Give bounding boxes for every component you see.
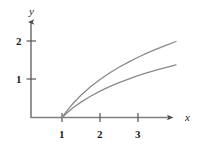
curve-upper	[62, 42, 176, 118]
plot-area: y x 2 1 1 2 3	[0, 0, 201, 151]
x-tick-label-3: 3	[135, 128, 141, 140]
x-tick-label-2: 2	[97, 128, 103, 140]
y-axis-label: y	[28, 5, 34, 17]
logarithm-curves-figure: y x 2 1 1 2 3	[0, 0, 201, 151]
x-axis-label: x	[184, 111, 190, 123]
x-tick-label-1: 1	[59, 128, 65, 140]
curve-lower	[62, 65, 176, 118]
y-tick-label-2: 2	[16, 35, 22, 47]
y-tick-label-1: 1	[16, 73, 22, 85]
